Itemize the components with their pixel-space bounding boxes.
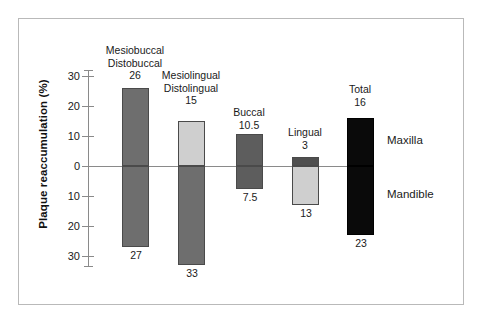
bar-segment-maxilla[interactable] bbox=[347, 118, 374, 166]
y-tick-label-text: 10 bbox=[54, 131, 80, 142]
chart-figure: 30 20 10 0 10 20 30 Plaque reaccumulatio… bbox=[0, 0, 484, 323]
y-tick-label-20-upper: 20 bbox=[50, 101, 80, 112]
bar-label-line2: Distolingual bbox=[131, 82, 251, 95]
bar-label-line1: Mesiolingual bbox=[131, 69, 251, 82]
bar-label-total: Total 16 bbox=[300, 83, 420, 108]
bar-segment-mandible[interactable] bbox=[178, 166, 205, 265]
bar-segment-mandible[interactable] bbox=[347, 166, 374, 235]
bar-label-line1: Mesiobuccal bbox=[75, 44, 195, 57]
bar-value-mandible-total: 23 bbox=[337, 237, 385, 249]
bar-label-line1: Total bbox=[300, 83, 420, 96]
y-tick-mark-20-upper bbox=[82, 106, 94, 107]
y-tick-mark-30-lower bbox=[82, 256, 94, 257]
y-tick-label-30-lower: 30 bbox=[50, 251, 80, 262]
y-tick-label-text: 10 bbox=[54, 191, 80, 202]
plot-area: 30 20 10 0 10 20 30 Plaque reaccumulatio… bbox=[0, 0, 484, 323]
y-tick-label-text: 0 bbox=[54, 161, 80, 172]
y-axis-bottom-cap bbox=[84, 266, 93, 267]
bar-label-line1: Buccal bbox=[189, 106, 309, 119]
y-tick-label-text: 20 bbox=[54, 221, 80, 232]
side-label-mandible: Mandible bbox=[387, 188, 434, 200]
bar-value-mandible-buccal: 7.5 bbox=[226, 191, 274, 203]
y-axis-title: Plaque reaccumulation (%) bbox=[37, 69, 49, 239]
bar-segment-mandible[interactable] bbox=[236, 166, 263, 189]
bar-value-maxilla: 15 bbox=[131, 94, 251, 107]
y-tick-label-text: 20 bbox=[54, 101, 80, 112]
y-axis-line bbox=[88, 70, 89, 266]
y-tick-label-10-lower: 10 bbox=[50, 191, 80, 202]
y-tick-mark-20-lower bbox=[82, 226, 94, 227]
y-tick-label-20-lower: 20 bbox=[50, 221, 80, 232]
bar-value-mandible-lingual: 13 bbox=[282, 207, 330, 219]
bar-segment-mandible[interactable] bbox=[122, 166, 149, 247]
bar-segment-maxilla[interactable] bbox=[292, 157, 319, 166]
bar-value-maxilla: 16 bbox=[300, 96, 420, 109]
bar-label-line2: Distobuccal bbox=[75, 57, 195, 70]
side-label-maxilla: Maxilla bbox=[387, 134, 423, 146]
bar-label-mesiolingual-distolingual: Mesiolingual Distolingual 15 bbox=[131, 69, 251, 107]
bar-value-mandible-mesiolingual-distolingual: 33 bbox=[168, 267, 216, 279]
y-tick-label-text: 30 bbox=[54, 251, 80, 262]
y-tick-label-zero: 0 bbox=[50, 161, 80, 172]
y-tick-mark-10-lower bbox=[82, 196, 94, 197]
y-tick-label-10-upper: 10 bbox=[50, 131, 80, 142]
bar-segment-mandible[interactable] bbox=[292, 166, 319, 205]
bar-value-mandible-mesiobuccal-distobuccal: 27 bbox=[112, 249, 160, 261]
y-tick-mark-10-upper bbox=[82, 136, 94, 137]
